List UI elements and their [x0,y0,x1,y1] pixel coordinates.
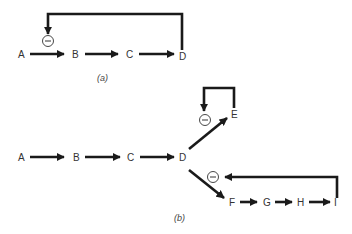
diagram-a: A B C D (a) [18,14,186,83]
caption-a: (a) [97,73,108,83]
node-b-C: C [127,152,134,163]
feedback-arrow-b-I [225,177,337,198]
node-a-C: C [126,49,133,60]
node-b-A: A [18,152,25,163]
caption-b: (b) [174,213,185,223]
inhibition-icon-a [43,36,54,47]
node-b-I: I [334,197,337,208]
inhibition-icon-b-E [200,115,211,126]
diagram-b: A B C D E F G H I (b) [18,88,337,223]
node-a-D: D [179,51,186,62]
node-a-B: B [72,49,79,60]
inhibition-icon-b-I [208,172,219,183]
feedback-arrow-a [48,14,182,50]
node-b-E: E [231,109,238,120]
node-b-F: F [229,197,235,208]
node-a-A: A [18,49,25,60]
arrow-b-D-F [189,170,224,198]
node-b-B: B [73,152,80,163]
feedback-inhibition-diagram: A B C D (a) A B C D E F G H I [0,0,352,234]
node-b-G: G [263,197,271,208]
node-b-H: H [297,197,304,208]
node-b-D: D [179,152,186,163]
feedback-arrow-b-E [204,88,234,111]
